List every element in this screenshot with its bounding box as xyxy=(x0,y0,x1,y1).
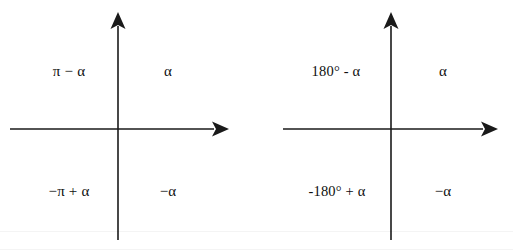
radians-axes xyxy=(0,0,256,251)
scan-artifact-line-bottom xyxy=(0,249,513,250)
degrees-quadrant-2-label: 180° - α xyxy=(312,64,361,79)
degrees-diagram-panel: 180° - α α -180° + α −α xyxy=(256,0,513,251)
degrees-quadrant-1-label: α xyxy=(439,64,447,79)
x-axis-arrowhead-icon xyxy=(212,122,229,137)
radians-diagram-panel: π − α α −π + α −α xyxy=(0,0,256,251)
scan-artifact-line xyxy=(0,231,513,232)
radians-quadrant-3-label: −π + α xyxy=(48,184,89,199)
x-axis-arrowhead-icon xyxy=(481,122,498,137)
radians-quadrant-4-label: −α xyxy=(160,184,177,199)
degrees-quadrant-4-label: −α xyxy=(435,184,452,199)
radians-quadrant-1-label: α xyxy=(164,64,172,79)
quadrant-angle-figure: π − α α −π + α −α 180° - α α -180° + α −… xyxy=(0,0,513,251)
degrees-axes xyxy=(256,0,513,251)
degrees-quadrant-3-label: -180° + α xyxy=(308,184,365,199)
radians-quadrant-2-label: π − α xyxy=(53,64,85,79)
